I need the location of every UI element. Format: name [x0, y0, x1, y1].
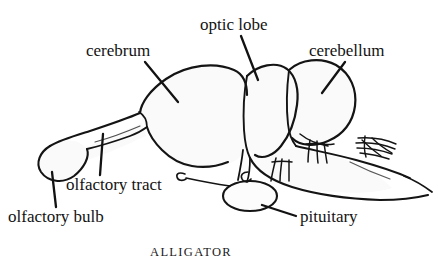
label-olfactory-tract: olfactory tract	[66, 176, 162, 193]
optic-nerve-hook	[177, 173, 186, 180]
leader-pituitary	[262, 205, 296, 216]
hypothalamus-edge	[247, 158, 250, 182]
ventral-edge-line	[186, 178, 230, 186]
nerve-fiber-bundle	[356, 136, 396, 159]
label-cerebrum: cerebrum	[86, 42, 150, 59]
label-cerebellum: cerebellum	[309, 42, 385, 59]
cerebrum-shape	[142, 65, 246, 168]
spinal-cord-outline	[404, 176, 432, 192]
label-olfactory-bulb: olfactory bulb	[8, 208, 104, 225]
label-pituitary: pituitary	[300, 208, 358, 225]
label-optic-lobe: optic lobe	[200, 16, 268, 33]
figure-caption: ALLIGATOR	[150, 245, 232, 260]
figure-page: cerebrum optic lobe cerebellum olfactory…	[0, 0, 438, 270]
